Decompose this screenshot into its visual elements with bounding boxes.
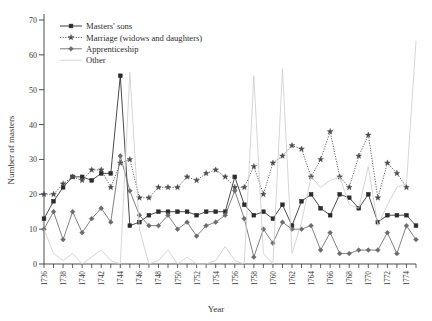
x-tick-label: 1772 [383,271,392,286]
data-point [318,156,324,161]
data-point [271,217,275,221]
data-point [147,213,151,217]
data-point [203,170,209,175]
data-point [109,171,113,175]
data-point [365,132,371,137]
x-tick-label: 1756 [231,271,240,286]
data-point [80,230,85,235]
data-point [309,192,313,196]
data-point [300,199,304,203]
x-tick-label: 1768 [345,271,354,286]
legend-label: Apprenticeship [86,44,139,54]
chart-legend: Masters' sonsMarriage (widows and daught… [60,21,202,65]
legend-label: Marriage (widows and daughters) [86,33,202,43]
x-tick-label: 1740 [78,271,87,286]
data-point [165,184,171,189]
y-tick-label: 40 [29,121,37,130]
y-tick-label: 30 [29,155,37,164]
data-point [261,191,267,196]
data-point [51,209,56,214]
data-point [70,209,75,214]
legend-item-3: Other [60,55,106,65]
data-point [404,223,409,228]
y-tick-label: 50 [29,86,37,95]
x-tick-label: 1762 [288,271,297,286]
data-point [405,213,409,217]
data-point [68,34,74,39]
data-point [108,184,114,189]
x-tick-label: 1770 [364,271,373,286]
legend-item-1: Marriage (widows and daughters) [60,33,202,43]
data-point [366,192,370,196]
data-point [242,216,247,221]
data-point [128,224,132,228]
data-point [194,177,200,182]
data-point [299,146,305,151]
series-2 [42,154,419,260]
chart-container: 010203040506070 173617381740174217441746… [0,0,432,321]
line-chart: 010203040506070 173617381740174217441746… [0,0,432,321]
data-point [251,255,256,260]
y-tick-label: 0 [33,260,37,269]
x-tick-label: 1760 [269,271,278,286]
data-point [309,223,314,228]
data-point [118,74,122,78]
legend-item-0: Masters' sons [60,21,133,31]
series-1 [41,129,409,201]
series-line [44,132,406,198]
x-tick-label: 1752 [193,271,202,286]
data-point [414,224,418,228]
x-axis: 1736173817401742174417461748175017521754… [40,264,416,286]
x-tick-label: 1766 [326,271,335,286]
series-3 [44,41,416,264]
y-tick-label: 70 [29,16,37,25]
x-tick-label: 1758 [250,271,259,286]
data-point [156,184,162,189]
y-tick-label: 60 [29,51,37,60]
x-tick-label: 1774 [402,271,411,286]
data-point [328,213,332,217]
data-point [318,248,323,253]
data-point [61,237,66,242]
data-point [242,203,246,207]
data-point [51,191,57,196]
x-axis-title: Year [208,304,225,314]
data-point [328,230,333,235]
y-tick-label: 10 [29,225,37,234]
data-point [375,248,380,253]
data-point [185,210,189,214]
data-point [414,237,419,242]
y-axis: 010203040506070 [29,14,44,269]
x-tick-label: 1748 [154,271,163,286]
data-point [280,153,286,158]
data-point [271,241,276,246]
data-point [204,210,208,214]
data-point [347,251,352,256]
data-point [42,217,46,221]
data-point [281,203,285,207]
data-point [270,160,276,165]
data-point [118,154,123,159]
x-tick-label: 1736 [40,271,49,286]
x-tick-label: 1750 [174,271,183,286]
series-0 [42,74,418,228]
legend-label: Masters' sons [86,21,133,31]
data-point [69,24,73,28]
x-tick-label: 1738 [59,271,68,286]
data-point [241,184,247,189]
data-point [157,210,161,214]
data-point [69,46,74,51]
x-tick-label: 1744 [116,271,125,286]
y-tick-label: 20 [29,190,37,199]
data-point [338,192,342,196]
data-point [251,163,257,168]
data-point [213,167,219,172]
data-point [347,196,351,200]
data-point [327,129,333,134]
data-point [337,251,342,256]
data-point [385,213,389,217]
x-tick-label: 1746 [135,271,144,286]
data-point [127,156,133,161]
data-point [346,184,352,189]
data-point [385,230,390,235]
